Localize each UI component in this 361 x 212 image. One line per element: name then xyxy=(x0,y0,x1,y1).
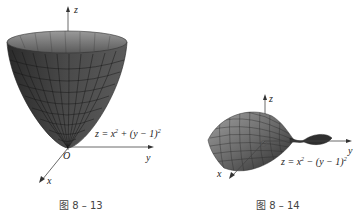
x-axis-arrow-icon xyxy=(229,172,235,179)
z-axis-arrow-icon xyxy=(263,94,267,100)
equation-label: z = x2 + (y − 1)2 xyxy=(95,128,161,139)
saddle-plot xyxy=(180,0,361,212)
figure-8-13: z y x O z = x2 + (y − 1)2 图 8 – 13 xyxy=(0,0,180,212)
figure-caption: 图 8 – 14 xyxy=(256,197,300,212)
x-axis-label: x xyxy=(217,169,221,179)
x-axis-label: x xyxy=(47,176,51,186)
equation-label: z = x2 − (y − 1)2 xyxy=(281,156,347,167)
y-axis-label: y xyxy=(146,153,150,163)
figure-8-14: z y x O z = x2 − (y − 1)2 图 8 – 14 xyxy=(180,0,361,212)
y-axis-arrow-icon xyxy=(346,139,352,143)
figure-caption: 图 8 – 13 xyxy=(59,197,103,212)
paraboloid-plot xyxy=(0,0,180,212)
y-axis-label: y xyxy=(348,146,352,156)
z-axis-label: z xyxy=(269,94,273,104)
saddle-tail xyxy=(290,134,332,144)
z-axis-arrow-icon xyxy=(66,6,70,12)
origin-label: O xyxy=(260,139,267,149)
origin-label: O xyxy=(63,151,70,161)
y-axis-arrow-icon xyxy=(148,145,154,149)
z-axis-label: z xyxy=(74,5,78,15)
